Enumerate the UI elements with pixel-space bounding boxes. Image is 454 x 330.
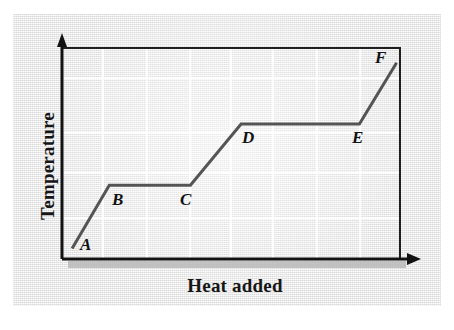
point-label-e: E	[352, 128, 363, 148]
point-label-a: A	[80, 235, 91, 255]
point-label-b: B	[112, 190, 123, 210]
y-axis-title: Temperature	[37, 96, 59, 236]
x-axis-arrowhead	[407, 253, 421, 265]
point-label-d: D	[242, 128, 254, 148]
x-axis-shadow	[68, 261, 406, 268]
heating-curve-figure: Temperature Heat added A B C D E F	[0, 0, 454, 330]
gridlines	[62, 49, 400, 258]
x-axis-title: Heat added	[160, 275, 310, 297]
axes	[57, 33, 421, 265]
point-label-c: C	[180, 190, 191, 210]
y-axis-arrowhead	[57, 33, 67, 47]
point-label-f: F	[375, 48, 386, 68]
heating-curve-line	[72, 63, 397, 249]
